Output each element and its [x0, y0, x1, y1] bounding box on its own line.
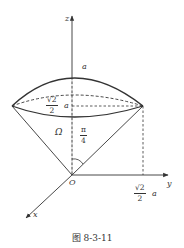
rim-height-fraction: √2 2 [46, 96, 58, 114]
rim-radius-fraction: √2 2 [134, 184, 146, 202]
half-angle-den: 4 [80, 136, 87, 145]
x-axis-label: x [33, 211, 38, 219]
rim-height-num: √2 [46, 96, 58, 106]
figure-caption: 图 8-3-11 [0, 231, 184, 244]
half-angle-fraction: π 4 [80, 126, 87, 144]
rim-radius-suffix: a [152, 189, 157, 198]
cone-sphere-diagram [0, 0, 184, 248]
origin-label: O [69, 179, 76, 187]
rim-height-suffix: a [64, 101, 69, 110]
z-axis-label: z [65, 15, 69, 23]
rim-radius-den: 2 [134, 194, 146, 203]
half-angle-num: π [80, 126, 87, 136]
sphere-cap-arc [12, 78, 143, 106]
rim-back-dashed [12, 95, 143, 106]
y-axis-label: y [167, 180, 172, 188]
rim-front-solid [12, 106, 143, 117]
region-omega-label: Ω [55, 128, 62, 137]
rim-height-den: 2 [46, 106, 58, 115]
cap-top-label: a [82, 63, 87, 71]
angle-arc [72, 159, 83, 164]
rim-radius-num: √2 [134, 184, 146, 194]
